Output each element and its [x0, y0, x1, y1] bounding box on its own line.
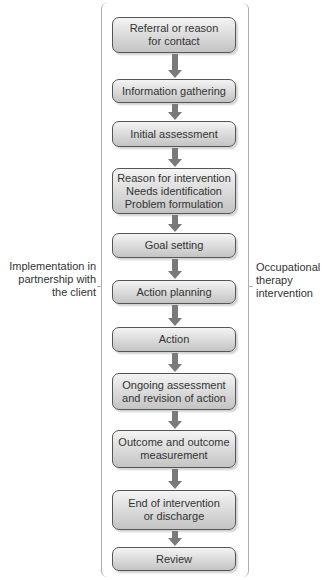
down-arrow-icon [171, 104, 179, 120]
right-bracket [242, 3, 249, 577]
flow-step-box: Outcome and outcome measurement [112, 430, 236, 468]
right-bracket-label: Occupational therapy intervention [256, 261, 320, 300]
down-arrow-icon [171, 305, 179, 326]
down-arrow-icon [171, 353, 179, 372]
down-arrow-icon [171, 215, 179, 232]
flow-step-box: Referral or reason for contact [112, 17, 236, 53]
flow-step-box: Information gathering [112, 79, 236, 103]
left-bracket-tick [97, 286, 101, 287]
flow-step-box: Reason for intervention Needs identifica… [112, 168, 236, 214]
flow-step-box: Initial assessment [112, 121, 236, 147]
down-arrow-icon [171, 54, 179, 78]
down-arrow-icon [171, 411, 179, 429]
flow-step-box: Action [112, 327, 236, 352]
down-arrow-icon [171, 148, 179, 167]
flow-step-box: Action planning [112, 280, 236, 304]
left-bracket [101, 3, 108, 577]
right-bracket-tick [249, 286, 253, 287]
flow-step-box: Goal setting [112, 233, 236, 258]
down-arrow-icon [171, 531, 179, 546]
down-arrow-icon [171, 259, 179, 279]
down-arrow-icon [171, 469, 179, 489]
flow-step-box: Ongoing assessment and revision of actio… [112, 373, 236, 410]
flow-step-box: End of intervention or discharge [112, 490, 236, 530]
flow-step-box: Review [112, 547, 236, 571]
left-bracket-label: Implementation in partnership with the c… [9, 260, 96, 299]
